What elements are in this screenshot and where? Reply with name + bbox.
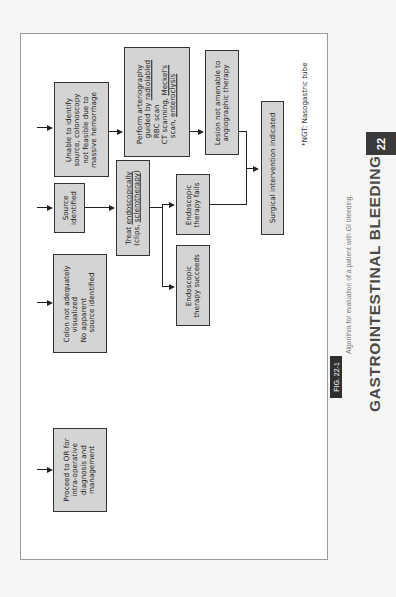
node-perform-arteriography: Perform arteriography guided by radiolab… [124,47,190,157]
node-colon-not-visualized: Colon not adequately visualized No appar… [53,254,107,353]
node-endoscopic-therapy-succeeds: Endoscopic therapy succeeds [176,245,210,326]
arrow-right-icon [198,129,204,135]
connector [162,204,163,287]
node-lesion-not-amenable: Lesion not amenable to angiographic ther… [205,50,239,155]
arrow-right-icon [47,205,53,211]
node-treat-endoscopically: Treat endoscopically (clips, sclerothera… [116,160,150,256]
chapter-title: GASTROINTESTINAL BLEEDING [366,155,384,412]
connector [85,207,110,208]
node-proceed-to-or: Proceed to OR for intra-operative diagno… [53,428,107,512]
figure-caption: Algorithm for evaluation of a patient wi… [345,195,352,354]
chapter-number-tab: 22 [366,132,396,155]
arrow-right-icon [253,166,259,172]
arrow-right-icon [117,129,123,135]
arrow-right-icon [47,300,53,306]
arrow-right-icon [47,467,53,473]
node-surgical-intervention: Surgical intervention indicated [261,101,284,235]
figure-label: FIG. 22-1 [330,356,342,398]
connector [210,204,247,205]
node-endoscopic-therapy-fails: Endoscopic therapy fails [176,174,210,235]
arrow-right-icon [47,125,53,131]
arrow-right-icon [109,205,115,211]
arrow-right-icon [169,202,175,208]
arrow-right-icon [169,284,175,290]
node-unable-to-identify-source: Unable to identify source, colonoscopy n… [54,82,109,177]
figure-footnote: *NGT: Nasogastric tube [300,62,309,146]
node-source-identified: Source identified [54,183,85,233]
